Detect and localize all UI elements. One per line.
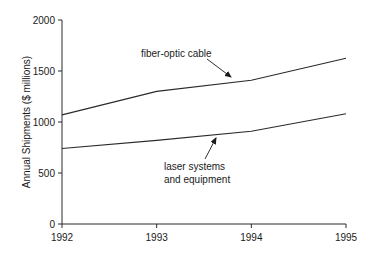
annotation-fiber-optic-label: fiber-optic cable [141, 48, 212, 59]
x-tick-label: 1993 [146, 232, 169, 243]
series-line-laser-systems-and-equipment [62, 114, 346, 149]
annotation-laser-label-line1: laser systems [164, 161, 225, 172]
x-tick-label: 1992 [51, 232, 74, 243]
y-tick-label: 1000 [33, 117, 56, 128]
arrow-icon [207, 59, 231, 77]
annotation-laser: laser systems and equipment [164, 138, 230, 185]
chart-svg: Annual Shipments ($ millions) 0500100015… [0, 0, 373, 257]
annotation-fiber-optic: fiber-optic cable [141, 48, 231, 77]
y-axis: 0500100015002000 [33, 15, 62, 230]
arrow-icon [205, 138, 216, 159]
x-tick-label: 1995 [335, 232, 358, 243]
x-axis: 1992199319941995 [51, 224, 358, 243]
series-group [62, 58, 346, 148]
annotation-laser-label-line2: and equipment [164, 174, 230, 185]
y-tick-label: 2000 [33, 15, 56, 26]
y-tick-label: 500 [38, 168, 55, 179]
y-axis-title: Annual Shipments ($ millions) [21, 56, 32, 188]
y-tick-label: 0 [49, 219, 55, 230]
series-line-fiber-optic-cable [62, 58, 346, 115]
x-tick-label: 1994 [240, 232, 263, 243]
y-tick-label: 1500 [33, 66, 56, 77]
line-chart: Annual Shipments ($ millions) 0500100015… [0, 0, 373, 257]
